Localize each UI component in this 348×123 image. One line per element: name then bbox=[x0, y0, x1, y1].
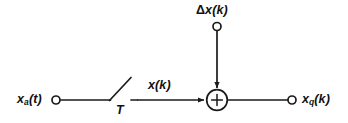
quantized-output-label-argument: (k) bbox=[314, 92, 330, 106]
sampled-signal-label-argument: (k) bbox=[155, 78, 171, 92]
quantized-output-label-text: x bbox=[302, 92, 309, 106]
switch-blade bbox=[110, 78, 132, 101]
quantization-error-label-prefix: Δ bbox=[196, 3, 205, 17]
analog-input-label: xa(t) bbox=[17, 93, 42, 106]
sampled-signal-label: x(k) bbox=[148, 79, 171, 92]
noise-terminal-icon bbox=[213, 23, 221, 31]
sampled-signal-label-text: x bbox=[148, 78, 155, 92]
analog-input-label-text: x bbox=[17, 92, 24, 106]
quantized-output-label: xq(k) bbox=[302, 93, 330, 106]
block-diagram-figure: xa(t) x(k) T Δx(k) xq(k) bbox=[0, 0, 348, 123]
quantization-error-label: Δx(k) bbox=[196, 4, 228, 17]
analog-input-label-subscript: a bbox=[24, 97, 29, 107]
analog-input-label-argument: (t) bbox=[29, 92, 42, 106]
sampling-period-label-text: T bbox=[116, 103, 124, 117]
diagram-canvas bbox=[0, 0, 348, 123]
input-terminal-icon bbox=[52, 96, 60, 104]
output-terminal-icon bbox=[288, 96, 296, 104]
quantization-error-label-argument: (k) bbox=[212, 3, 228, 17]
quantized-output-label-subscript: q bbox=[309, 97, 314, 107]
sampling-period-label: T bbox=[116, 104, 124, 117]
